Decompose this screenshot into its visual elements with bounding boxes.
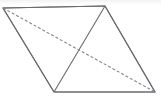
parallelogram-diagram bbox=[0, 0, 161, 99]
geometry-figure bbox=[0, 0, 161, 99]
left-edge bbox=[3, 8, 54, 92]
solid-diagonal bbox=[54, 6, 105, 92]
dashed-diagonal bbox=[3, 8, 155, 92]
top-edge bbox=[3, 6, 105, 8]
right-edge bbox=[105, 6, 155, 92]
